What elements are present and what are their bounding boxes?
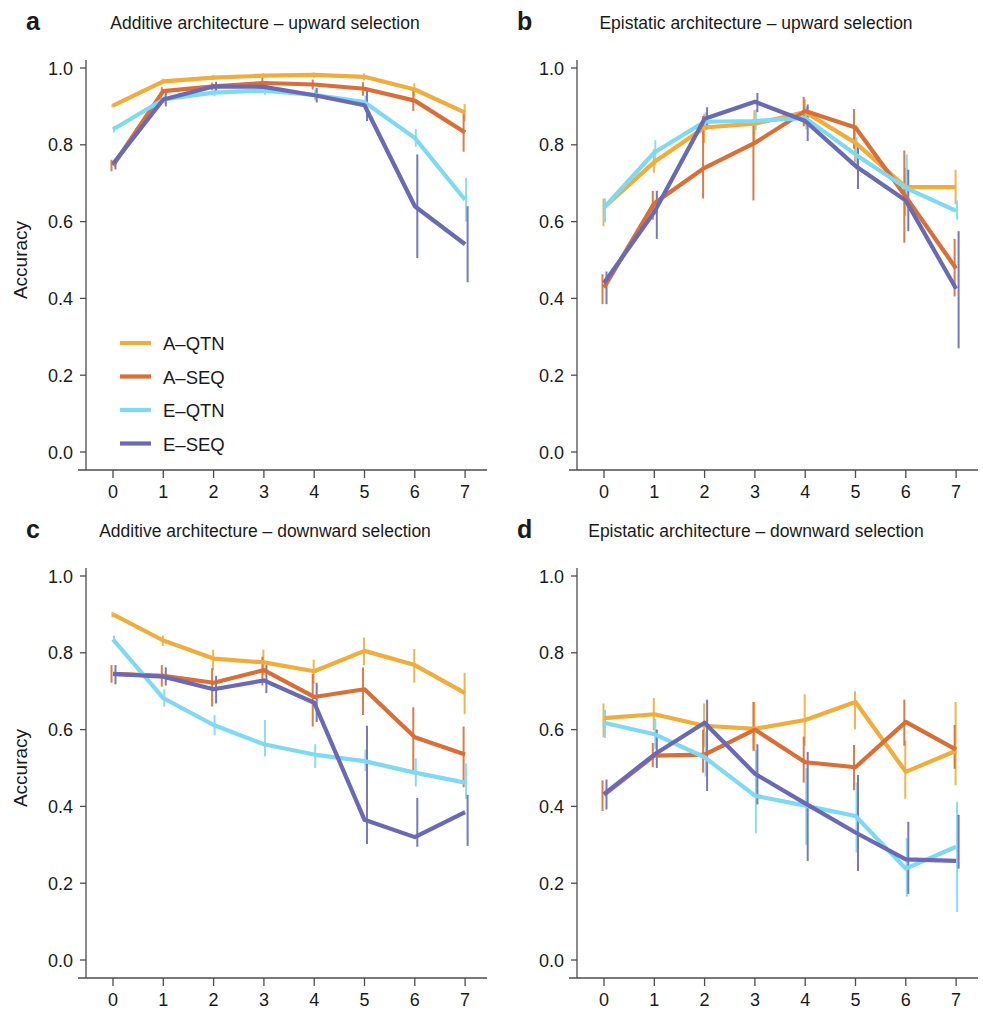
x-tick-label: 4 xyxy=(309,990,319,1010)
chart-panel-d: dEpistatic architecture – downward selec… xyxy=(491,508,982,1016)
x-tick-label: 1 xyxy=(649,990,659,1010)
x-tick-label: 6 xyxy=(901,990,911,1010)
panel-title-b: Epistatic architecture – upward selectio… xyxy=(599,13,912,33)
y-tick-label: 0.4 xyxy=(539,797,564,817)
y-tick-label: 0.4 xyxy=(48,289,73,309)
x-tick-label: 4 xyxy=(800,482,810,502)
x-tick-label: 3 xyxy=(750,482,760,502)
panel-title-d: Epistatic architecture – downward select… xyxy=(588,521,924,541)
x-tick-label: 2 xyxy=(700,990,710,1010)
y-tick-label: 1.0 xyxy=(539,59,564,79)
x-tick-label: 5 xyxy=(359,990,369,1010)
panel-letter-d: d xyxy=(517,515,532,543)
y-axis-title: Accuracy xyxy=(10,728,31,807)
y-tick-label: 0.6 xyxy=(48,212,73,232)
panel-letter-a: a xyxy=(26,7,41,35)
x-tick-label: 7 xyxy=(951,482,961,502)
x-tick-label: 1 xyxy=(158,482,168,502)
x-tick-label: 4 xyxy=(309,482,319,502)
y-tick-label: 0.4 xyxy=(48,797,73,817)
chart-svg-d: dEpistatic architecture – downward selec… xyxy=(491,508,982,1016)
series-line-e-seq xyxy=(113,86,465,244)
y-tick-label: 0.8 xyxy=(539,643,564,663)
legend-label: A–SEQ xyxy=(163,367,225,388)
legend: A–QTNA–SEQE–QTNE–SEQ xyxy=(120,333,225,455)
x-tick-label: 7 xyxy=(460,482,470,502)
chart-svg-a: aAdditive architecture – upward selectio… xyxy=(0,0,491,508)
x-tick-label: 7 xyxy=(951,990,961,1010)
x-tick-label: 3 xyxy=(259,990,269,1010)
y-tick-label: 0.8 xyxy=(539,135,564,155)
y-tick-label: 0.6 xyxy=(539,720,564,740)
y-tick-label: 0.0 xyxy=(539,443,564,463)
panel-title-a: Additive architecture – upward selection xyxy=(110,13,419,33)
x-tick-label: 2 xyxy=(700,482,710,502)
y-tick-label: 1.0 xyxy=(539,567,564,587)
y-tick-label: 1.0 xyxy=(48,59,73,79)
y-tick-label: 0.8 xyxy=(48,135,73,155)
x-tick-label: 0 xyxy=(108,482,118,502)
y-tick-label: 1.0 xyxy=(48,567,73,587)
x-tick-label: 2 xyxy=(209,990,219,1010)
y-tick-label: 0.2 xyxy=(539,874,564,894)
x-tick-label: 5 xyxy=(850,990,860,1010)
legend-label: E–SEQ xyxy=(163,434,225,455)
chart-panel-b: bEpistatic architecture – upward selecti… xyxy=(491,0,982,508)
y-tick-label: 0.2 xyxy=(539,366,564,386)
panel-letter-b: b xyxy=(517,7,532,35)
x-tick-label: 1 xyxy=(649,482,659,502)
figure-container: aAdditive architecture – upward selectio… xyxy=(0,0,983,1016)
legend-label: E–QTN xyxy=(163,400,225,421)
x-tick-label: 3 xyxy=(259,482,269,502)
x-tick-label: 4 xyxy=(800,990,810,1010)
y-tick-label: 0.0 xyxy=(48,443,73,463)
y-tick-label: 0.8 xyxy=(48,643,73,663)
x-tick-label: 2 xyxy=(209,482,219,502)
y-tick-label: 0.6 xyxy=(539,212,564,232)
x-tick-label: 6 xyxy=(410,990,420,1010)
x-tick-label: 5 xyxy=(359,482,369,502)
x-tick-label: 0 xyxy=(599,990,609,1010)
series-line-e-qtn xyxy=(113,91,465,200)
x-tick-label: 3 xyxy=(750,990,760,1010)
y-tick-label: 0.6 xyxy=(48,720,73,740)
legend-label: A–QTN xyxy=(163,333,225,354)
x-tick-label: 0 xyxy=(599,482,609,502)
error-bars-e-seq xyxy=(607,93,959,348)
panel-letter-c: c xyxy=(26,515,40,543)
y-axis-title: Accuracy xyxy=(10,220,31,299)
chart-panel-a: aAdditive architecture – upward selectio… xyxy=(0,0,491,508)
y-tick-label: 0.4 xyxy=(539,289,564,309)
chart-panel-c: cAdditive architecture – downward select… xyxy=(0,508,491,1016)
y-tick-label: 0.0 xyxy=(539,951,564,971)
x-tick-label: 7 xyxy=(460,990,470,1010)
y-tick-label: 0.0 xyxy=(48,951,73,971)
series-line-e-qtn xyxy=(113,639,465,782)
x-tick-label: 6 xyxy=(410,482,420,502)
error-bars-e-seq xyxy=(116,81,468,282)
y-tick-label: 0.2 xyxy=(48,874,73,894)
x-tick-label: 0 xyxy=(108,990,118,1010)
chart-svg-b: bEpistatic architecture – upward selecti… xyxy=(491,0,982,508)
chart-svg-c: cAdditive architecture – downward select… xyxy=(0,508,491,1016)
panel-title-c: Additive architecture – downward selecti… xyxy=(99,521,431,541)
y-tick-label: 0.2 xyxy=(48,366,73,386)
x-tick-label: 1 xyxy=(158,990,168,1010)
x-tick-label: 5 xyxy=(850,482,860,502)
x-tick-label: 6 xyxy=(901,482,911,502)
